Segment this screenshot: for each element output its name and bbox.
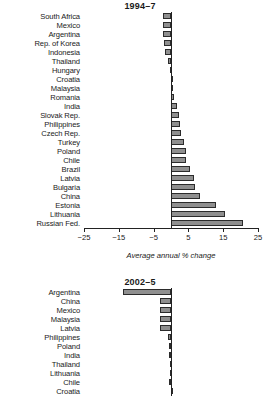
bar-track	[84, 288, 266, 297]
bar	[171, 139, 184, 145]
bar-row-label: Lithuania	[0, 369, 84, 378]
bar	[171, 166, 190, 172]
bar	[171, 193, 200, 199]
zero-line	[171, 147, 172, 156]
bar-row: Czech Rep.	[0, 129, 266, 138]
bar-row-label: Chile	[0, 378, 84, 387]
bar-row: South Africa	[0, 12, 266, 21]
bar	[171, 211, 225, 217]
zero-line	[171, 192, 172, 201]
bar-row-label: Russian Fed.	[0, 219, 84, 228]
bar-row: Chile	[0, 378, 266, 387]
x-axis-tick-label: −25	[78, 233, 91, 242]
bar-row-label: Poland	[0, 147, 84, 156]
bar-track	[84, 57, 266, 66]
x-axis-tick-label: 25	[254, 233, 262, 242]
bar-row-label: Latvia	[0, 324, 84, 333]
zero-line	[171, 306, 172, 315]
x-axis-line	[84, 228, 258, 229]
bar	[123, 289, 171, 295]
bar-row-label: Brazil	[0, 165, 84, 174]
bar-track	[84, 102, 266, 111]
bar-track	[84, 324, 266, 333]
zero-line	[171, 111, 172, 120]
bar-row-label: Croatia	[0, 75, 84, 84]
bar-row-label: Bulgaria	[0, 183, 84, 192]
bar-track	[84, 138, 266, 147]
bar-track	[84, 111, 266, 120]
bar-row: Lithuania	[0, 369, 266, 378]
bar-track	[84, 30, 266, 39]
bar	[171, 220, 243, 226]
zero-line	[171, 201, 172, 210]
zero-line	[171, 156, 172, 165]
zero-line	[171, 351, 172, 360]
zero-line	[171, 39, 172, 48]
zero-line	[171, 324, 172, 333]
bar-row: Indonesia	[0, 48, 266, 57]
bar-row: Poland	[0, 342, 266, 351]
bar-row: Rep. of Korea	[0, 39, 266, 48]
bar	[163, 13, 171, 19]
zero-line	[171, 219, 172, 228]
chart-2002-5: 2002–5 ArgentinaChinaMexicoMalaysiaLatvi…	[0, 276, 266, 397]
bar-row-label: Latvia	[0, 174, 84, 183]
chart-2002-5-plot: ArgentinaChinaMexicoMalaysiaLatviaPhilip…	[0, 288, 266, 396]
bar-row-label: China	[0, 297, 84, 306]
bar-row-label: Malaysia	[0, 315, 84, 324]
bar-row-label: Turkey	[0, 138, 84, 147]
bar-track	[84, 297, 266, 306]
bar-track	[84, 39, 266, 48]
bar-row-label: Estonia	[0, 201, 84, 210]
bar-row: Bulgaria	[0, 183, 266, 192]
x-axis-caption: Average annual % change	[84, 251, 266, 260]
bar-track	[84, 129, 266, 138]
bar-row-label: Lithuania	[0, 210, 84, 219]
bar-track	[84, 48, 266, 57]
zero-line	[171, 315, 172, 324]
bar-row: Latvia	[0, 174, 266, 183]
bar	[160, 307, 171, 313]
bar-row-label: Rep. of Korea	[0, 39, 84, 48]
bar-row: Argentina	[0, 288, 266, 297]
bar-track	[84, 12, 266, 21]
bar-row-label: Croatia	[0, 387, 84, 396]
bar-track	[84, 360, 266, 369]
bar-row-label: Philippines	[0, 333, 84, 342]
bar	[171, 121, 180, 127]
bar-row: Russian Fed.	[0, 219, 266, 228]
chart-2002-5-bars: ArgentinaChinaMexicoMalaysiaLatviaPhilip…	[0, 288, 266, 396]
zero-line	[171, 129, 172, 138]
bar-row-label: Argentina	[0, 30, 84, 39]
bar-row-label: Argentina	[0, 288, 84, 297]
bar-row-label: Hungary	[0, 66, 84, 75]
bar-row: China	[0, 297, 266, 306]
bar-row-label: Thailand	[0, 57, 84, 66]
bar	[163, 31, 171, 37]
bar	[171, 148, 186, 154]
bar-row-label: Mexico	[0, 21, 84, 30]
zero-line	[171, 12, 172, 21]
zero-line	[171, 165, 172, 174]
bar-row: Malaysia	[0, 315, 266, 324]
bar	[171, 157, 186, 163]
zero-line	[171, 48, 172, 57]
chart-2002-5-title: 2002–5	[14, 276, 266, 288]
bar-track	[84, 369, 266, 378]
bar-track	[84, 147, 266, 156]
bar-row: Romania	[0, 93, 266, 102]
bar	[160, 325, 171, 331]
zero-line	[171, 210, 172, 219]
zero-line	[171, 84, 172, 93]
zero-line	[171, 138, 172, 147]
bar-row-label: India	[0, 351, 84, 360]
bar-row-label: Czech Rep.	[0, 129, 84, 138]
zero-line	[171, 342, 172, 351]
zero-line	[171, 66, 172, 75]
bar-row: India	[0, 102, 266, 111]
bar-track	[84, 378, 266, 387]
zero-line	[171, 387, 172, 396]
bar-row-label: Indonesia	[0, 48, 84, 57]
zero-line	[171, 102, 172, 111]
x-axis-tick-label: 5	[186, 233, 190, 242]
